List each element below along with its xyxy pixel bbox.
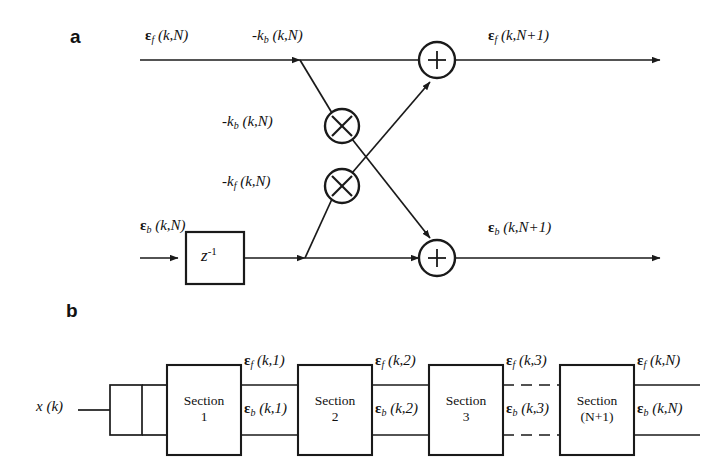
label-interconnect-b-1: εb (k,1) (244, 401, 287, 418)
label-top-rail-coefficient: -kb (k,N) (252, 28, 303, 45)
label-interconnect-f-3: εf (k,3) (506, 353, 547, 370)
input-splitter-block (110, 385, 142, 435)
label-interconnect-f-n: εf (k,N) (637, 353, 680, 370)
section-label-2: Section2 (298, 393, 372, 424)
label-backward-output: εb (k,N+1) (488, 220, 551, 237)
panel-a-label: a (70, 26, 81, 48)
label-interconnect-f-1: εf (k,1) (244, 353, 285, 370)
section-label-3: Section3 (429, 393, 503, 424)
delay-block-label: z-1 (201, 245, 217, 266)
label-upper-multiplier-coefficient: -kb (k,N) (222, 114, 273, 131)
label-interconnect-b-3: εb (k,3) (506, 401, 549, 418)
section-label-1: Section1 (167, 393, 241, 424)
section-label-n1: Section(N+1) (560, 393, 634, 424)
label-interconnect-f-2: εf (k,2) (375, 353, 416, 370)
branch-lower-multiplier-to-top-adder (352, 82, 430, 173)
panel-b-label: b (66, 300, 78, 322)
branch-upper-multiplier-to-bottom-adder (352, 139, 430, 238)
branch-bottom-to-lower-multiplier (305, 199, 332, 258)
label-interconnect-b-2: εb (k,2) (375, 401, 418, 418)
label-interconnect-b-n: εb (k,N) (637, 401, 683, 418)
label-input-x: x (k) (36, 399, 63, 414)
label-forward-input: εf (k,N) (145, 28, 188, 45)
label-backward-input: εb (k,N) (140, 218, 186, 235)
branch-top-to-upper-multiplier (300, 60, 332, 113)
label-lower-multiplier-coefficient: -kf (k,N) (222, 174, 271, 191)
label-forward-output: εf (k,N+1) (488, 28, 549, 45)
